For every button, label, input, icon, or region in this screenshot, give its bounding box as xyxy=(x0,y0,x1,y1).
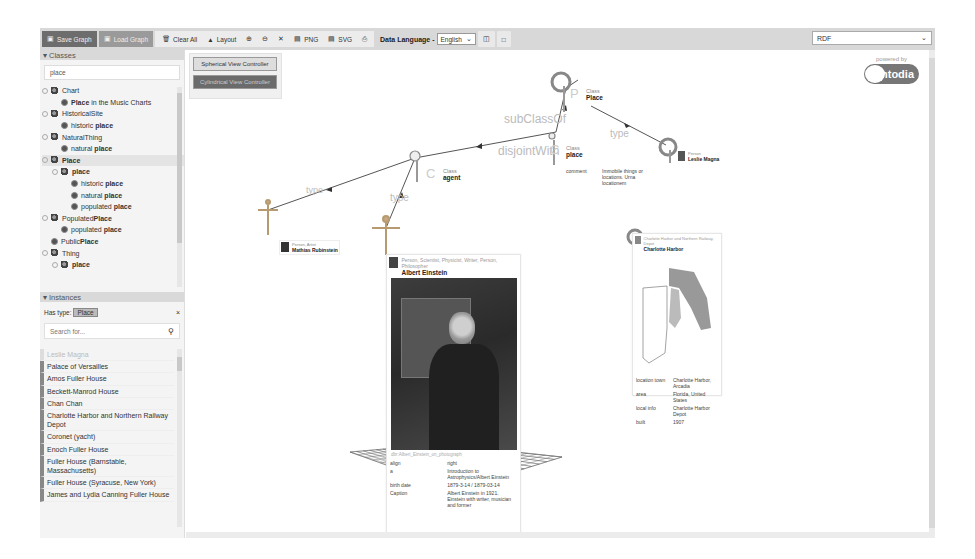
prop-key: Caption xyxy=(390,490,447,508)
export-png-button[interactable]: ▤ PNG xyxy=(289,31,323,47)
ontodia-logo[interactable]: ntodia xyxy=(864,64,919,84)
node-type-letter: C xyxy=(426,166,435,181)
node-mathias[interactable]: Person, Artist Mathias Rubinstein xyxy=(279,240,340,255)
class-tree-item[interactable]: Chart xyxy=(42,85,184,97)
expand-toggle-icon[interactable] xyxy=(42,157,48,163)
node-leslie-magna[interactable]: Person Leslie Magna xyxy=(678,151,719,162)
expand-toggle-icon[interactable] xyxy=(42,111,48,117)
instance-item[interactable]: Coronet (yacht) xyxy=(40,431,174,443)
expand-toggle-icon[interactable] xyxy=(42,215,48,221)
node-place-subclass[interactable]: Class place comment Immobile things or l… xyxy=(566,145,656,186)
prop-value: 1907 xyxy=(673,419,718,425)
data-language-select[interactable]: English ⌄ xyxy=(437,33,476,45)
spherical-view-button[interactable]: Spherical View Controller xyxy=(193,57,277,71)
instance-item[interactable]: Enoch Fuller House xyxy=(40,444,174,456)
instance-item[interactable]: Charlotte Harbor and Northern Railway De… xyxy=(40,410,174,431)
has-type-badge[interactable]: Place xyxy=(73,308,97,317)
einstein-card[interactable]: Person, Scientist, Physicist, Writer, Pe… xyxy=(386,254,521,534)
node-thumbnail xyxy=(678,151,685,161)
print-icon: ⎙ xyxy=(362,35,367,43)
toggle-left-panel-button[interactable]: ◫ xyxy=(478,31,495,47)
search-icon[interactable]: ⚲ xyxy=(168,327,174,336)
class-tree-item[interactable]: PublicPlace xyxy=(42,236,184,248)
cylindrical-view-button[interactable]: Cylindrical View Controller xyxy=(193,75,277,89)
card-thumbnail xyxy=(389,257,398,268)
svg-label: SVG xyxy=(338,36,352,43)
card-url[interactable]: dbr:Albert_Einstein_on_photograph xyxy=(387,450,520,459)
export-svg-button[interactable]: ▤ SVG xyxy=(323,31,357,47)
graph-horizontal-scrollbar[interactable] xyxy=(186,532,929,538)
instances-search-input[interactable]: Search for... ⚲ xyxy=(44,323,180,339)
card-caption: Person, Scientist, Physicist, Writer, Pe… xyxy=(401,257,518,269)
chevron-down-icon: ⌄ xyxy=(466,35,472,43)
class-icon xyxy=(51,110,59,118)
node-type-letter: C xyxy=(550,142,559,157)
expand-toggle-icon[interactable] xyxy=(42,88,48,94)
has-type-filter: Has type: Place × xyxy=(40,305,184,319)
save-graph-button[interactable]: ▣ Save Graph xyxy=(42,31,97,47)
class-tree-item[interactable]: populated place xyxy=(42,224,184,236)
class-tree-item[interactable]: HistoricalSite xyxy=(42,108,184,120)
graph-canvas[interactable]: subClassOf type disjointWith type type P… xyxy=(186,50,935,538)
class-label: natural place xyxy=(81,192,122,199)
fit-button[interactable]: ✕ xyxy=(273,31,289,47)
zoom-out-button[interactable]: ⊖ xyxy=(257,31,273,47)
class-tree-item[interactable]: place xyxy=(42,166,184,178)
layout-button[interactable]: ▲ Layout xyxy=(202,31,241,47)
rdf-select[interactable]: RDF ⌄ xyxy=(812,31,932,45)
clear-all-button[interactable]: 🗑 Clear All xyxy=(157,31,202,47)
class-tree-item[interactable]: Thing xyxy=(42,247,184,259)
classes-header[interactable]: ▾ Classes xyxy=(40,50,184,60)
node-name: Leslie Magna xyxy=(688,156,719,162)
class-tree-item[interactable]: historic place xyxy=(42,178,184,190)
instance-item[interactable]: Fuller House (Syracuse, New York) xyxy=(40,477,174,489)
graph-vertical-scrollbar[interactable] xyxy=(929,50,935,538)
zoom-in-button[interactable]: ⊕ xyxy=(241,31,257,47)
toggle-right-panel-button[interactable]: □ xyxy=(497,31,511,47)
class-tree-item[interactable]: Place xyxy=(42,155,184,167)
instance-item[interactable]: Beckett-Manrod House xyxy=(40,386,174,398)
caret-down-icon: ▾ xyxy=(43,51,47,60)
expand-toggle-icon[interactable] xyxy=(52,169,58,175)
florida-map xyxy=(639,258,719,368)
load-label: Load Graph xyxy=(114,36,148,43)
class-tree-item[interactable]: natural place xyxy=(42,189,184,201)
class-tree-item[interactable]: place xyxy=(42,259,184,271)
instances-list: Leslie MagnaPalace of VersaillesAmos Ful… xyxy=(40,349,184,529)
instance-item[interactable]: Palace of Versailles xyxy=(40,361,174,373)
class-tree-item[interactable]: PopulatedPlace xyxy=(42,213,184,225)
property-row: areaFlorida, United States xyxy=(633,390,721,404)
instance-item[interactable]: Fuller House (Barnstable, Massachusetts) xyxy=(40,456,174,477)
node-name: place xyxy=(566,151,656,158)
expand-toggle-icon[interactable] xyxy=(42,134,48,140)
class-tree-item[interactable]: Place in the Music Charts xyxy=(42,97,184,109)
folder-icon: ▣ xyxy=(104,35,111,43)
instances-header[interactable]: ▾ Instances xyxy=(40,292,184,302)
print-button[interactable]: ⎙ xyxy=(357,31,372,47)
expand-toggle-icon[interactable] xyxy=(52,262,58,268)
image-icon: ▤ xyxy=(294,35,301,43)
load-graph-button[interactable]: ▣ Load Graph xyxy=(99,31,153,47)
charlotte-harbor-card[interactable]: Charlotte Harbor and Northern Railway, D… xyxy=(632,233,722,396)
class-icon xyxy=(51,87,59,95)
class-tree-item[interactable]: populated place xyxy=(42,201,184,213)
instance-item[interactable]: Chan Chan xyxy=(40,398,174,410)
instances-scrollbar[interactable] xyxy=(177,349,182,527)
prop-key: comment xyxy=(566,168,602,186)
dot-icon xyxy=(61,226,68,233)
instance-item[interactable]: James and Lydia Canning Fuller House xyxy=(40,489,174,501)
instance-item[interactable]: Amos Fuller House xyxy=(40,373,174,385)
class-tree-item[interactable]: historic place xyxy=(42,120,184,132)
clear-type-button[interactable]: × xyxy=(176,309,180,316)
dot-icon xyxy=(71,180,78,187)
expand-toggle-icon[interactable] xyxy=(42,250,48,256)
classes-filter-input[interactable]: place xyxy=(44,65,180,80)
class-tree-scrollbar[interactable] xyxy=(177,87,182,287)
class-tree-item[interactable]: NaturalThing xyxy=(42,131,184,143)
instance-item[interactable]: Leslie Magna xyxy=(40,349,174,361)
prop-value: Charlotte Harbor Depot xyxy=(673,405,718,417)
class-tree-item[interactable]: natural place xyxy=(42,143,184,155)
node-agent[interactable]: Class agent xyxy=(443,168,460,181)
node-place-class[interactable]: Class Place xyxy=(586,88,603,101)
zoom-out-icon: ⊖ xyxy=(262,35,268,43)
